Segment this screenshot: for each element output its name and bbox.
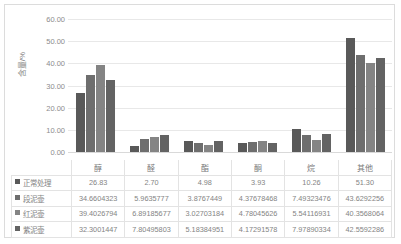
table-value-cell: 51.30 bbox=[338, 175, 391, 191]
table-row: 段泥壶34.66043235.96357773.87674494.3767846… bbox=[12, 191, 392, 207]
table-corner-cell bbox=[12, 160, 72, 175]
bar[interactable] bbox=[86, 75, 95, 152]
table-row: 红泥壶39.40267946.891856773.027031844.78045… bbox=[12, 206, 392, 222]
table-value-cell: 3.02703184 bbox=[178, 206, 231, 222]
table-value-cell: 2.70 bbox=[125, 175, 178, 191]
legend-entry[interactable]: 紫泥壶 bbox=[12, 222, 72, 238]
category-header-cell: 酮 bbox=[231, 160, 284, 175]
bar-group bbox=[230, 19, 284, 152]
y-axis-tick-labels: 60.0050.0040.0030.0020.0010.000.00 bbox=[35, 7, 65, 160]
legend-swatch-icon bbox=[15, 179, 20, 184]
legend-swatch-icon bbox=[15, 195, 20, 200]
table-value-cell: 26.83 bbox=[72, 175, 125, 191]
bar-group bbox=[122, 19, 176, 152]
table-value-cell: 10.26 bbox=[285, 175, 338, 191]
table-value-cell: 4.78045626 bbox=[231, 206, 284, 222]
legend-swatch-icon bbox=[15, 210, 20, 215]
table-value-cell: 3.8767449 bbox=[178, 191, 231, 207]
category-header-cell: 其他 bbox=[338, 160, 391, 175]
y-axis-tick-label: 50.00 bbox=[35, 37, 65, 46]
bar[interactable] bbox=[204, 145, 213, 152]
legend-label: 正常处理 bbox=[23, 179, 51, 188]
bar[interactable] bbox=[160, 135, 169, 152]
bar[interactable] bbox=[150, 137, 159, 152]
legend-label: 紫泥壶 bbox=[23, 226, 44, 235]
table-header-row: 醇醛酯酮烷其他 bbox=[12, 160, 392, 175]
legend-swatch-icon bbox=[15, 226, 20, 231]
bar[interactable] bbox=[76, 93, 85, 152]
legend-entry[interactable]: 正常处理 bbox=[12, 175, 72, 191]
bar-group bbox=[284, 19, 338, 152]
bar[interactable] bbox=[214, 141, 223, 152]
bar-group bbox=[338, 19, 392, 152]
table-value-cell: 32.3001447 bbox=[72, 222, 125, 238]
table-value-cell: 40.3568064 bbox=[338, 206, 391, 222]
table-value-cell: 34.6604323 bbox=[72, 191, 125, 207]
category-header-cell: 酯 bbox=[178, 160, 231, 175]
table-value-cell: 7.97890334 bbox=[285, 222, 338, 238]
bar[interactable] bbox=[302, 135, 311, 152]
bar[interactable] bbox=[96, 65, 105, 152]
bar[interactable] bbox=[346, 38, 355, 152]
category-header-cell: 醛 bbox=[125, 160, 178, 175]
table-value-cell: 43.6292256 bbox=[338, 191, 391, 207]
category-header-cell: 烷 bbox=[285, 160, 338, 175]
bar[interactable] bbox=[312, 140, 321, 152]
y-axis-title: 含量/% bbox=[16, 35, 27, 95]
bar[interactable] bbox=[140, 139, 149, 152]
gridline bbox=[68, 152, 392, 153]
table-row: 紫泥壶32.30014477.804958035.183849514.17291… bbox=[12, 222, 392, 238]
bar[interactable] bbox=[184, 141, 193, 152]
chart-data-table: 醇醛酯酮烷其他正常处理26.832.704.983.9310.2651.30段泥… bbox=[11, 160, 392, 238]
legend-entry[interactable]: 段泥壶 bbox=[12, 191, 72, 207]
bar[interactable] bbox=[322, 134, 331, 152]
bar[interactable] bbox=[292, 129, 301, 152]
table-value-cell: 7.80495803 bbox=[125, 222, 178, 238]
y-axis-tick-label: 30.00 bbox=[35, 81, 65, 90]
legend-label: 红泥壶 bbox=[23, 210, 44, 219]
table-value-cell: 5.54116931 bbox=[285, 206, 338, 222]
plot-region: 含量/% 60.0050.0040.0030.0020.0010.000.00 bbox=[5, 7, 394, 160]
bar[interactable] bbox=[376, 58, 385, 152]
table-value-cell: 5.18384951 bbox=[178, 222, 231, 238]
bar[interactable] bbox=[194, 143, 203, 152]
y-axis-tick-label: 40.00 bbox=[35, 59, 65, 68]
table-row: 正常处理26.832.704.983.9310.2651.30 bbox=[12, 175, 392, 191]
table-value-cell: 3.93 bbox=[231, 175, 284, 191]
table-value-cell: 6.89185677 bbox=[125, 206, 178, 222]
table-value-cell: 39.4026794 bbox=[72, 206, 125, 222]
y-axis-tick-label: 10.00 bbox=[35, 125, 65, 134]
legend-label: 段泥壶 bbox=[23, 195, 44, 204]
table-value-cell: 7.49323476 bbox=[285, 191, 338, 207]
bar[interactable] bbox=[356, 55, 365, 152]
bar-series-layer bbox=[68, 19, 392, 152]
legend-entry[interactable]: 红泥壶 bbox=[12, 206, 72, 222]
table-value-cell: 4.17291578 bbox=[231, 222, 284, 238]
y-axis-tick-label: 0.00 bbox=[35, 148, 65, 157]
bar[interactable] bbox=[268, 143, 277, 152]
table-value-cell: 42.5592286 bbox=[338, 222, 391, 238]
bar-group bbox=[68, 19, 122, 152]
bar[interactable] bbox=[130, 146, 139, 152]
bar[interactable] bbox=[248, 142, 257, 152]
y-axis-tick-label: 60.00 bbox=[35, 15, 65, 24]
bar[interactable] bbox=[366, 63, 375, 152]
y-axis-tick-label: 20.00 bbox=[35, 103, 65, 112]
plot-area bbox=[68, 19, 392, 152]
bar-group bbox=[176, 19, 230, 152]
bar[interactable] bbox=[238, 143, 247, 152]
category-header-cell: 醇 bbox=[72, 160, 125, 175]
table-value-cell: 5.9635777 bbox=[125, 191, 178, 207]
chart-frame: 含量/% 60.0050.0040.0030.0020.0010.000.00 … bbox=[4, 4, 395, 238]
table-value-cell: 4.37678468 bbox=[231, 191, 284, 207]
bar[interactable] bbox=[258, 141, 267, 152]
table-value-cell: 4.98 bbox=[178, 175, 231, 191]
bar[interactable] bbox=[106, 80, 115, 152]
